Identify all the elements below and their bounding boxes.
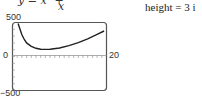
graph-screen [0, 0, 202, 97]
